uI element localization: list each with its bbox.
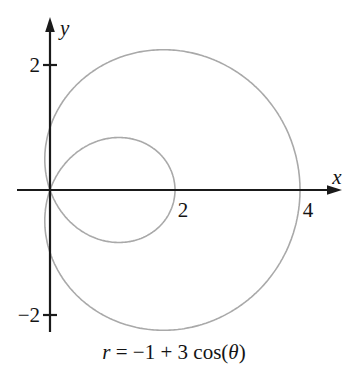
y-axis-arrow-icon xyxy=(45,17,55,32)
x-axis: x xyxy=(17,165,342,195)
equation-variable: θ xyxy=(228,340,238,364)
x-tick-label: 4 xyxy=(303,198,314,222)
x-axis-label: x xyxy=(331,165,342,189)
y-axis-label: y xyxy=(58,16,70,40)
plot-canvas: x y 2−2 24 xyxy=(0,0,364,373)
x-tick-label: 2 xyxy=(178,198,189,222)
equation-variable: r xyxy=(102,340,110,364)
x-axis-tick-labels: 24 xyxy=(178,198,314,222)
y-tick-label: −2 xyxy=(18,303,40,327)
equation-caption: r = −1 + 3 cos(θ) xyxy=(0,340,348,365)
polar-plot-figure: x y 2−2 24 r = −1 + 3 cos(θ) xyxy=(0,0,364,373)
y-tick-label: 2 xyxy=(30,53,41,77)
equation-text: ) xyxy=(239,340,246,364)
equation-text: = −1 + 3 cos( xyxy=(111,340,229,364)
